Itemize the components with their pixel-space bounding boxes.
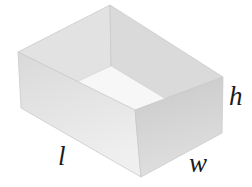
width-label: w [189, 150, 207, 177]
box-figure [0, 0, 252, 187]
diagram-canvas: l w h [0, 0, 252, 187]
length-label: l [58, 143, 66, 170]
height-label: h [229, 83, 243, 110]
